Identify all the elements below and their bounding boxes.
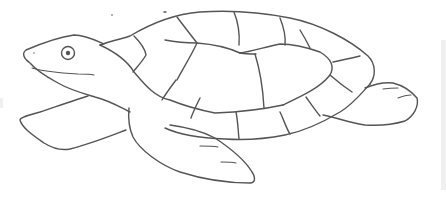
flipper-claw — [200, 146, 218, 147]
rear-flipper-claw — [398, 95, 411, 98]
nostril — [33, 52, 34, 53]
rear-flipper — [323, 83, 417, 126]
eye-pupil — [66, 51, 70, 55]
mouth-line — [32, 68, 94, 75]
turtle-drawing — [0, 0, 446, 202]
front-left-flipper — [20, 96, 126, 150]
shell — [100, 11, 374, 139]
front-right-flipper — [129, 108, 255, 183]
head — [24, 35, 130, 112]
stray-mark — [111, 14, 113, 16]
rear-flipper-claw — [383, 88, 398, 89]
right-edge-smudge — [441, 40, 446, 190]
left-edge-mark — [0, 98, 3, 108]
flipper-claw — [221, 162, 236, 163]
